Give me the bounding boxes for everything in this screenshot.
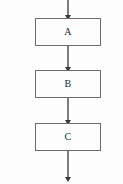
flowchart-node-b: B bbox=[35, 70, 101, 98]
flowchart-diagram: A B C bbox=[0, 0, 123, 184]
flowchart-node-c: C bbox=[35, 123, 101, 151]
flowchart-node-a-label: A bbox=[64, 27, 71, 37]
flowchart-node-c-label: C bbox=[65, 132, 72, 142]
flowchart-node-b-label: B bbox=[65, 79, 72, 89]
flowchart-node-a: A bbox=[35, 18, 101, 46]
